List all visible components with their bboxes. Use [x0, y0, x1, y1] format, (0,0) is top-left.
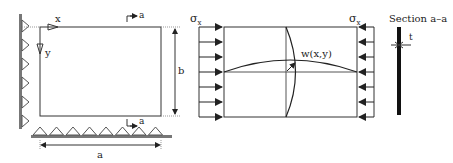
plate-buckling-diagram: x y a a b [0, 0, 453, 163]
plate-outline [40, 27, 161, 116]
deflection-label: w(x,y) [301, 48, 332, 59]
pin-support-icon [66, 127, 80, 135]
thickness-label: t [409, 32, 413, 42]
pin-support-icon [132, 127, 146, 135]
section-marker-label: a [139, 116, 145, 126]
y-axis-arrow: y [37, 44, 51, 58]
section-title: Section a–a [389, 13, 447, 24]
loaded-view: σx σx w(x,y) [190, 12, 374, 117]
section-marker-bottom: a [127, 116, 145, 126]
y-axis-label: y [44, 47, 51, 58]
section-view: Section a–a t [389, 13, 447, 115]
dimension-a: a [40, 140, 161, 160]
pin-support-icon [22, 39, 29, 51]
pin-support-icon [22, 96, 29, 108]
stress-label-left: σx [190, 12, 202, 27]
pin-support-icon [83, 127, 97, 135]
section-marker-top: a [127, 10, 145, 22]
deflection-curve-horizontal [224, 60, 357, 72]
pin-support-icon [33, 127, 47, 135]
deflection-arrow [287, 63, 295, 71]
dimension-b: b [172, 28, 184, 115]
pin-support-icon [22, 77, 29, 89]
pin-support-icon [149, 127, 163, 135]
x-axis-label: x [55, 13, 61, 24]
plate-view: x y a a b [19, 10, 184, 160]
pin-support-icon [99, 127, 113, 135]
pin-support-icon [22, 20, 29, 32]
stress-label-right: σx [349, 12, 361, 27]
bottom-supports [33, 127, 163, 135]
section-plate [397, 27, 401, 115]
width-label: a [97, 149, 103, 160]
pin-support-icon [22, 58, 29, 70]
pin-support-icon [22, 115, 29, 127]
left-supports [22, 20, 29, 127]
height-label: b [178, 65, 184, 76]
pin-support-icon [50, 127, 64, 135]
pin-support-icon [116, 127, 130, 135]
section-marker-label: a [139, 10, 145, 20]
